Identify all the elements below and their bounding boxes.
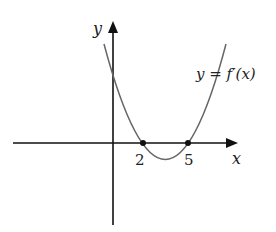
y-axis-arrow-icon	[108, 21, 118, 33]
root-point-2	[140, 140, 146, 146]
root-label-2: 2	[135, 151, 145, 169]
derivative-curve	[104, 44, 226, 160]
x-axis-label: x	[232, 149, 241, 168]
x-axis-arrow-icon	[226, 138, 238, 148]
curve-label: y = f′(x)	[195, 65, 256, 83]
root-point-5	[185, 140, 191, 146]
root-label-5: 5	[184, 151, 194, 169]
derivative-graph: y x 2 5 y = f′(x)	[0, 0, 276, 232]
y-axis-label: y	[92, 19, 103, 38]
